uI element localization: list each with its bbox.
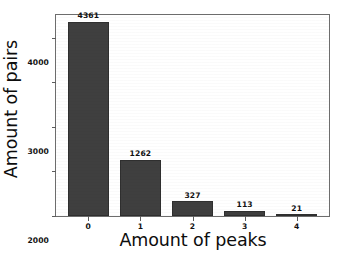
x-axis-label: Amount of peaks: [55, 230, 331, 250]
bar: [68, 22, 109, 216]
x-axis-tick: [297, 216, 298, 221]
x-axis-tick: [140, 216, 141, 221]
x-axis-tick: [193, 216, 194, 221]
y-axis-tick-label: 4000: [27, 57, 49, 66]
y-axis-tick-label: 2000: [27, 235, 49, 244]
plot-area: 43611262327113210100020003000400001234: [56, 15, 329, 216]
y-axis-tick-label: 3000: [27, 146, 49, 155]
bar-value-label: 21: [276, 204, 317, 213]
x-axis-tick: [245, 216, 246, 221]
bar: [172, 201, 213, 216]
bar-chart-figure: Amount of pairs 436112623271132101000200…: [0, 0, 344, 262]
bar: [120, 160, 161, 216]
bar-value-label: 327: [172, 191, 213, 200]
bar-value-label: 4361: [68, 11, 109, 20]
y-axis-tick: 0: [52, 216, 57, 217]
y-axis-tick: 1000: [52, 171, 57, 172]
bar-value-label: 1262: [120, 149, 161, 158]
y-axis-label: Amount of pairs: [0, 0, 22, 218]
plot-axes-frame: 43611262327113210100020003000400001234: [55, 14, 330, 217]
x-axis-tick: [88, 216, 89, 221]
y-axis-label-text: Amount of pairs: [1, 40, 21, 178]
y-axis-tick: 3000: [52, 82, 57, 83]
y-axis-tick: 2000: [52, 127, 57, 128]
y-axis-tick: 4000: [52, 38, 57, 39]
bar-value-label: 113: [224, 200, 265, 209]
